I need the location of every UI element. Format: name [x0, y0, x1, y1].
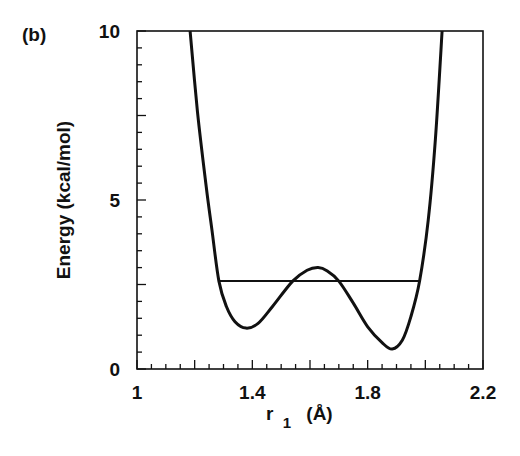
x-tick-label: 2.2 [470, 382, 496, 403]
x-tick-label: 1 [132, 382, 143, 403]
series-group [190, 31, 442, 349]
x-axis-title: r 1 (Å) [266, 403, 333, 432]
panel-label: (b) [22, 24, 46, 45]
x-axis-title-subscript: 1 [283, 414, 291, 431]
series-potential-curve [190, 31, 442, 349]
y-tick-label: 5 [109, 190, 120, 211]
energy-chart: 11.41.82.20510 (b) Energy (kcal/mol) r 1… [0, 0, 520, 456]
tick-labels: 11.41.82.20510 [99, 21, 496, 403]
y-axis-title: Energy (kcal/mol) [53, 121, 74, 279]
x-axis-title-symbol: r [266, 403, 274, 424]
y-tick-label: 10 [99, 21, 120, 42]
y-tick-label: 0 [109, 359, 120, 380]
x-axis-title-unit: (Å) [306, 403, 332, 424]
x-tick-label: 1.4 [239, 382, 266, 403]
x-tick-label: 1.8 [354, 382, 380, 403]
